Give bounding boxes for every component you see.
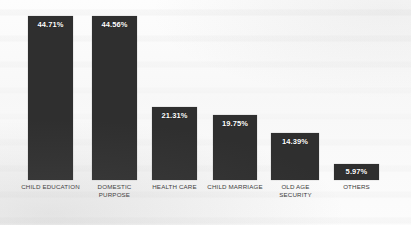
plot-area: 44.71% CHILD EDUCATION 44.56% DOMESTIC P… bbox=[0, 0, 411, 225]
bar-group-child-education: 44.71% bbox=[28, 16, 73, 180]
bar-group-old-age-security: 14.39% bbox=[271, 133, 319, 180]
bar-label-others: OTHERS bbox=[332, 183, 381, 191]
bar-value-old-age-security: 14.39% bbox=[271, 137, 319, 146]
bar-group-health-care: 21.31% bbox=[152, 107, 197, 180]
bar-health-care[interactable]: 21.31% bbox=[152, 107, 197, 180]
bar-value-child-marriage: 19.75% bbox=[213, 119, 257, 128]
bar-group-domestic-purpose: 44.56% bbox=[92, 16, 137, 180]
bar-old-age-security[interactable]: 14.39% bbox=[271, 133, 319, 180]
bar-group-child-marriage: 19.75% bbox=[213, 115, 257, 180]
bar-child-education[interactable]: 44.71% bbox=[28, 16, 73, 180]
bar-chart-figure: 44.71% CHILD EDUCATION 44.56% DOMESTIC P… bbox=[0, 0, 411, 225]
bar-label-health-care: HEALTH CARE bbox=[143, 183, 206, 191]
bar-label-child-marriage: CHILD MARRIAGE bbox=[203, 183, 267, 191]
bar-domestic-purpose[interactable]: 44.56% bbox=[92, 16, 137, 180]
bar-others[interactable]: 5.97% bbox=[334, 164, 379, 180]
bar-label-child-education: CHILD EDUCATION bbox=[10, 183, 91, 191]
bar-label-domestic-purpose: DOMESTIC PURPOSE bbox=[82, 183, 147, 199]
bar-value-others: 5.97% bbox=[334, 167, 379, 176]
bar-group-others: 5.97% bbox=[334, 164, 379, 180]
bar-value-health-care: 21.31% bbox=[152, 111, 197, 120]
bar-value-child-education: 44.71% bbox=[28, 20, 73, 29]
bar-label-old-age-security: OLD AGE SECURITY bbox=[265, 183, 326, 199]
bar-child-marriage[interactable]: 19.75% bbox=[213, 115, 257, 180]
bar-value-domestic-purpose: 44.56% bbox=[92, 20, 137, 29]
